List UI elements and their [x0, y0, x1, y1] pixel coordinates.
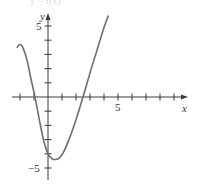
y-axis-arrow-icon	[46, 13, 51, 20]
x-axis-label: x	[181, 102, 187, 114]
graph-title: y = f(x)	[30, 0, 61, 7]
function-graph: y = f(x) 5 x y 5 −5	[0, 0, 197, 185]
x-axis-arrow-icon	[181, 95, 188, 100]
x-tick-label-5: 5	[115, 101, 121, 113]
function-curve	[17, 16, 108, 160]
y-tick-label-neg5: −5	[28, 162, 40, 174]
y-tick-label-5: 5	[36, 20, 42, 32]
